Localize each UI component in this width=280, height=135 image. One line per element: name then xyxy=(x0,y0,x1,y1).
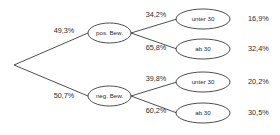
edge-label-pos-unter30-probability: 34,2% xyxy=(146,10,167,19)
edge-root-to-pos xyxy=(14,33,88,65)
edge-label-neg-unter30-probability: 39,8% xyxy=(146,74,167,83)
probability-tree-diagram: pos. Bew. neg. Bew. unter 30 ab 30 unter… xyxy=(0,0,280,135)
edge-pos-to-unter30 xyxy=(131,19,177,33)
edge-label-neg-ab30-probability: 60,2% xyxy=(146,106,167,115)
tree-svg-canvas: pos. Bew. neg. Bew. unter 30 ab 30 unter… xyxy=(0,0,280,135)
node-neg-ab30-label: ab 30 xyxy=(195,109,211,116)
node-pos-ab30-label: ab 30 xyxy=(195,45,211,52)
result-neg-unter30: 20,2% xyxy=(248,77,269,86)
result-pos-unter30: 16,9% xyxy=(248,14,269,23)
node-neg-bew-label: neg. Bew. xyxy=(96,92,123,99)
node-pos-bew-label: pos. Bew. xyxy=(96,29,123,36)
edge-label-neg-probability: 50,7% xyxy=(54,91,75,100)
edge-neg-to-unter30 xyxy=(131,82,177,96)
result-pos-ab30: 32,4% xyxy=(248,44,269,53)
node-neg-unter30-label: unter 30 xyxy=(192,78,215,85)
result-neg-ab30: 30,5% xyxy=(248,108,269,117)
edge-label-pos-probability: 49,3% xyxy=(54,26,75,35)
node-pos-unter30-label: unter 30 xyxy=(192,15,215,22)
edge-root-to-neg xyxy=(14,65,88,96)
edge-label-pos-ab30-probability: 65,8% xyxy=(146,43,167,52)
